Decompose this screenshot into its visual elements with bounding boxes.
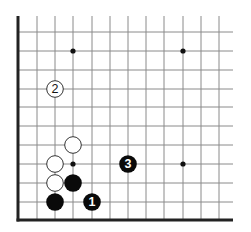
black-stone-3: 3 xyxy=(119,155,137,173)
black-stone-icon xyxy=(46,193,64,211)
move-number-label: 2 xyxy=(52,82,59,96)
black-stone-icon xyxy=(64,174,82,192)
star-point-icon xyxy=(180,161,185,166)
move-number-label: 3 xyxy=(125,157,132,171)
star-point-icon xyxy=(70,48,75,53)
white-stone xyxy=(47,156,64,173)
black-stone xyxy=(64,174,82,192)
white-stone xyxy=(65,137,82,154)
go-board-diagram: 123 xyxy=(0,0,251,232)
white-stone-2: 2 xyxy=(47,81,64,98)
star-point-icon xyxy=(70,161,75,166)
star-point-icon xyxy=(180,48,185,53)
white-stone-icon xyxy=(47,156,64,173)
white-stone xyxy=(47,175,64,192)
move-number-label: 1 xyxy=(89,195,96,209)
white-stone-icon xyxy=(47,175,64,192)
white-stone-icon xyxy=(65,137,82,154)
black-stone xyxy=(46,193,64,211)
black-stone-1: 1 xyxy=(83,193,101,211)
